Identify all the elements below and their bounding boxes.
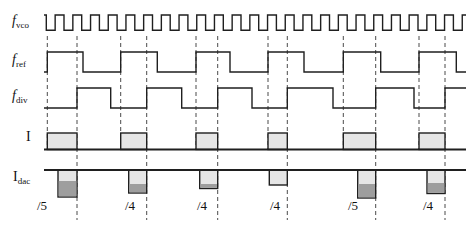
signal-label-idac: Idac xyxy=(13,170,30,187)
signal-sub: vco xyxy=(16,20,29,30)
signal-sub: div xyxy=(16,95,28,105)
fvco-waveform xyxy=(44,15,466,30)
cycle-ratio-label: /5 xyxy=(37,199,47,212)
cycle-ratio-label: /4 xyxy=(125,199,135,212)
idac-pulse-dark-band xyxy=(59,181,77,196)
fdiv-waveform xyxy=(44,88,466,108)
signal-label-fvco: fvco xyxy=(12,14,29,31)
signal-label-fdiv: fdiv xyxy=(12,89,27,106)
signal-label-fref: fref xyxy=(12,53,26,70)
cycle-ratio-label: /4 xyxy=(270,199,280,212)
signal-label-i: I xyxy=(26,130,31,147)
idac-current-pulse xyxy=(269,170,287,185)
cycle-ratio-label: /4 xyxy=(423,199,433,212)
i-current-pulse xyxy=(121,133,147,150)
signal-main: I xyxy=(26,129,31,144)
idac-pulse-dark-band xyxy=(129,184,146,192)
signal-sub: ref xyxy=(16,59,26,69)
i-current-pulse xyxy=(47,133,77,150)
cycle-ratio-label: /4 xyxy=(197,199,207,212)
i-current-pulse xyxy=(343,133,375,150)
fref-waveform xyxy=(44,52,466,72)
i-current-pulse xyxy=(419,133,445,150)
timing-diagram-figure: fvco fref fdiv I Idac /5/4/4/4/5/4 xyxy=(0,0,468,226)
cycle-ratio-label: /5 xyxy=(348,199,358,212)
idac-pulse-dark-band xyxy=(200,184,217,188)
idac-pulse-dark-band xyxy=(428,183,445,193)
i-current-pulse xyxy=(196,133,218,150)
i-current-pulse xyxy=(268,133,287,150)
idac-pulse-dark-band xyxy=(358,184,375,197)
waveforms-canvas xyxy=(0,0,468,226)
signal-sub: dac xyxy=(18,176,31,186)
